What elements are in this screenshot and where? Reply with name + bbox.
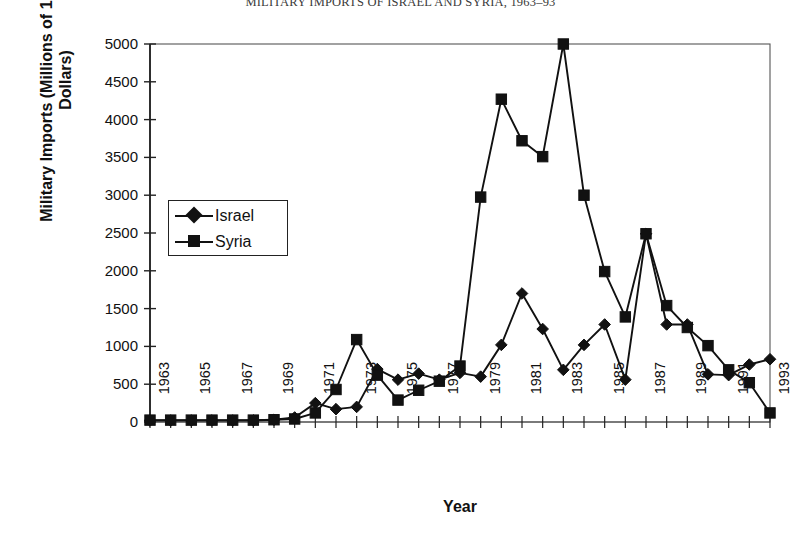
data-point-marker — [599, 266, 609, 276]
data-point-marker — [269, 415, 279, 425]
data-point-marker — [413, 368, 425, 380]
data-point-marker — [372, 370, 382, 380]
data-point-marker — [310, 408, 320, 418]
data-point-marker — [145, 415, 155, 425]
data-point-marker — [682, 322, 692, 332]
data-point-marker — [289, 414, 299, 424]
data-point-marker — [517, 136, 527, 146]
data-point-marker — [620, 312, 630, 322]
data-point-marker — [330, 403, 342, 415]
legend-label-syria: Syria — [215, 233, 251, 251]
data-point-marker — [702, 369, 714, 381]
data-point-marker — [351, 334, 361, 344]
legend-entry-israel: Israel — [169, 202, 289, 230]
data-point-marker — [661, 300, 671, 310]
data-point-marker — [475, 192, 485, 202]
data-point-marker — [703, 340, 713, 350]
data-point-marker — [331, 384, 341, 394]
data-point-marker — [641, 229, 651, 239]
data-point-marker — [393, 395, 403, 405]
data-point-marker — [186, 415, 196, 425]
data-point-marker — [620, 374, 632, 386]
legend-label-israel: Israel — [215, 207, 254, 225]
data-point-marker — [723, 365, 733, 375]
data-point-marker — [537, 323, 549, 335]
data-point-marker — [165, 415, 175, 425]
data-point-marker — [248, 415, 258, 425]
chart-figure: MILITARY IMPORTS OF ISRAEL AND SYRIA, 19… — [0, 0, 801, 540]
data-point-marker — [455, 361, 465, 371]
data-point-marker — [496, 339, 508, 351]
data-point-marker — [392, 374, 404, 386]
series-israel — [144, 228, 776, 426]
data-point-marker — [434, 376, 444, 386]
data-point-marker — [227, 415, 237, 425]
plot-area — [0, 0, 801, 540]
square-marker-icon — [173, 231, 215, 253]
diamond-marker-icon — [173, 205, 215, 227]
chart-legend: Israel Syria — [168, 200, 288, 256]
legend-entry-syria: Syria — [169, 228, 289, 256]
data-point-marker — [661, 319, 673, 331]
data-point-marker — [207, 415, 217, 425]
data-point-marker — [413, 385, 423, 395]
data-point-marker — [579, 190, 589, 200]
data-point-marker — [516, 288, 528, 300]
data-point-marker — [558, 39, 568, 49]
data-point-marker — [744, 359, 756, 371]
data-point-marker — [765, 408, 775, 418]
data-point-marker — [537, 151, 547, 161]
data-point-marker — [744, 377, 754, 387]
data-point-marker — [496, 94, 506, 104]
data-point-marker — [764, 353, 776, 365]
data-point-marker — [351, 401, 363, 413]
data-point-marker — [475, 371, 487, 383]
